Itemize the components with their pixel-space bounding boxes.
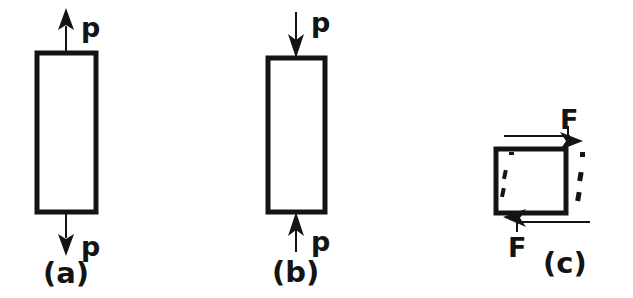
panel-a-caption: (a) [43, 259, 89, 288]
panel-c-deformation-dashes-right [575, 152, 585, 201]
panel-c-bottom-force-label: F [508, 234, 526, 261]
panel-a-group [37, 8, 96, 256]
figure-canvas: p p (a) p p (b) F F (c) [0, 0, 633, 298]
panel-c-caption: (c) [543, 249, 587, 278]
panel-a-body-rectangle [37, 53, 96, 212]
panel-b-caption: (b) [272, 258, 319, 287]
panel-b-group [268, 12, 325, 252]
panel-c-body-square [496, 149, 566, 213]
panel-c-group [496, 126, 590, 232]
panel-b-bottom-force-label: p [311, 228, 330, 255]
panel-c-top-force-label: F [560, 106, 578, 133]
panel-a-top-force-label: p [81, 14, 100, 41]
panel-b-body-rectangle [268, 58, 325, 212]
panel-b-top-force-label: p [311, 9, 330, 36]
